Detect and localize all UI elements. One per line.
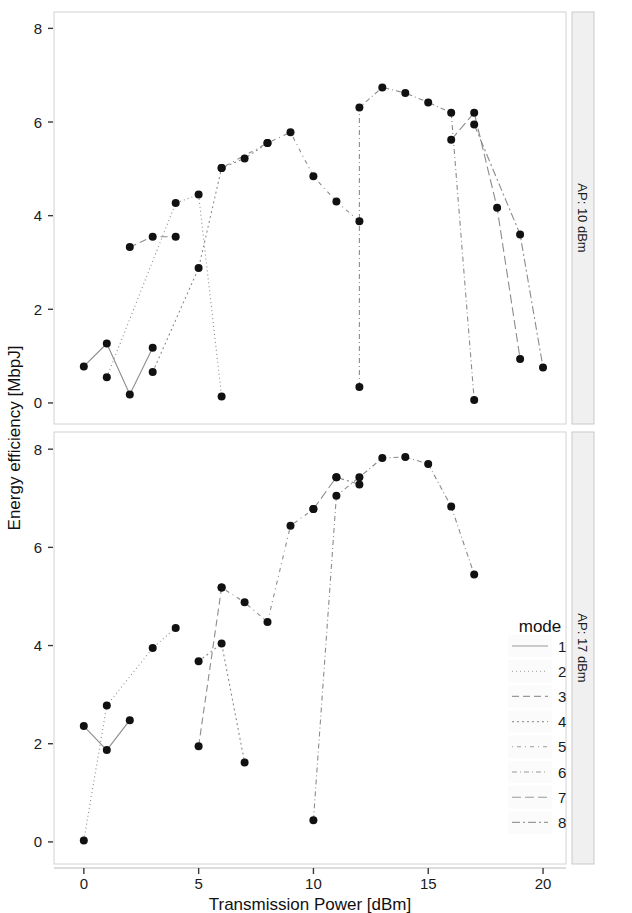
data-point [172,233,180,241]
data-point [218,640,226,648]
data-point [264,618,272,626]
data-point [195,191,203,199]
data-point [355,217,363,225]
data-point [378,454,386,462]
y-tick-label: 2 [34,735,42,752]
legend-key-background [508,711,552,733]
data-point [241,155,249,163]
panel-background [54,432,566,864]
data-point [126,243,134,251]
data-point [80,362,88,370]
strip-label: AP: 17 dBm [575,613,590,682]
x-axis-title: Transmission Power [dBm] [209,895,411,913]
data-point [332,198,340,206]
x-tick-label: 5 [194,875,202,892]
data-point [332,473,340,481]
y-tick-label: 4 [34,207,42,224]
legend-label-mode-2: 2 [558,663,566,680]
data-point [378,83,386,91]
data-point [309,172,317,180]
data-point [470,120,478,128]
data-point [149,344,157,352]
data-point [355,383,363,391]
data-point [355,481,363,489]
data-point [516,355,524,363]
legend-label-mode-3: 3 [558,688,566,705]
y-tick-label: 6 [34,114,42,131]
y-tick-label: 4 [34,637,42,654]
panel-ap-10-dbm: 02468AP: 10 dBm [34,12,594,424]
data-point [401,89,409,97]
x-tick-label: 0 [80,875,88,892]
data-point [80,722,88,730]
data-point [287,128,295,136]
legend-label-mode-7: 7 [558,789,566,806]
data-point [149,644,157,652]
data-point [447,109,455,117]
y-tick-label: 8 [34,441,42,458]
plot-canvas: 02468AP: 10 dBm02468AP: 17 dBm05101520Tr… [0,0,632,913]
data-point [195,742,203,750]
data-point [447,503,455,511]
data-point [309,816,317,824]
y-axis-title: Energy efficiency [MbpJ] [5,346,24,531]
data-point [516,230,524,238]
data-point [470,570,478,578]
y-tick-label: 8 [34,20,42,37]
chart-figure: 02468AP: 10 dBm02468AP: 17 dBm05101520Tr… [0,0,632,913]
x-tick-label: 10 [305,875,322,892]
data-point [103,746,111,754]
data-point [470,396,478,404]
x-tick-label: 20 [535,875,552,892]
data-point [126,391,134,399]
data-point [195,657,203,665]
y-tick-label: 2 [34,301,42,318]
panel-background [54,12,566,424]
data-point [218,164,226,172]
data-point [539,363,547,371]
data-point [424,98,432,106]
data-point [401,453,409,461]
data-point [149,233,157,241]
data-point [424,460,432,468]
legend-label-mode-6: 6 [558,764,566,781]
data-point [103,701,111,709]
legend-label-mode-5: 5 [558,738,566,755]
data-point [332,492,340,500]
data-point [287,522,295,530]
legend-key-background [508,660,552,682]
data-point [103,340,111,348]
data-point [172,199,180,207]
data-point [493,204,501,212]
data-point [195,264,203,272]
y-tick-label: 0 [34,833,42,850]
data-point [264,139,272,147]
data-point [470,109,478,117]
y-tick-label: 0 [34,394,42,411]
legend-label-mode-4: 4 [558,713,566,730]
legend-title: mode [519,617,562,636]
data-point [218,392,226,400]
strip-label: AP: 10 dBm [575,183,590,252]
data-point [355,473,363,481]
x-tick-label: 15 [420,875,437,892]
data-point [309,505,317,513]
legend: mode12345678 [508,617,566,833]
y-tick-label: 6 [34,539,42,556]
data-point [241,598,249,606]
data-point [103,373,111,381]
data-point [126,716,134,724]
data-point [447,136,455,144]
data-point [241,758,249,766]
data-point [172,624,180,632]
data-point [80,836,88,844]
x-axis: 05101520Transmission Power [dBm] [54,868,566,913]
data-point [218,584,226,592]
data-point [149,368,157,376]
legend-label-mode-8: 8 [558,814,566,831]
data-point [355,104,363,112]
legend-label-mode-1: 1 [558,638,566,655]
